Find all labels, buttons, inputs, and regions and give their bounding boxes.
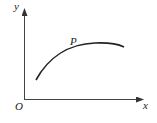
x-axis-label: x	[142, 99, 148, 111]
diagram-canvas: P y x O	[0, 0, 157, 123]
curve	[36, 43, 124, 80]
origin-label: O	[15, 100, 23, 112]
y-axis-label: y	[13, 0, 19, 12]
point-p-label: P	[69, 35, 77, 47]
